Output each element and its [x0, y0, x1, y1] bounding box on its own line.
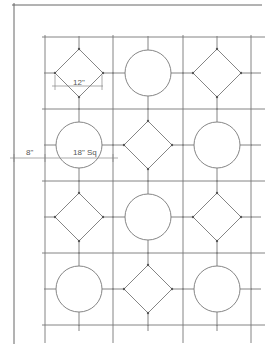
diamond-tile — [193, 49, 241, 97]
circle-dimension-label: 18" Sq — [73, 149, 97, 157]
tile-pattern-drawing — [0, 0, 278, 356]
circle-tile — [194, 122, 240, 168]
circle-tile — [56, 122, 102, 168]
diamond-tile — [124, 121, 172, 169]
border-offset-label: 8" — [26, 149, 33, 157]
circle-tile — [125, 194, 171, 240]
diamond-tile — [124, 265, 172, 313]
circle-tile — [56, 266, 102, 312]
circle-tile — [194, 266, 240, 312]
diamond-tile — [55, 49, 103, 97]
diamond-tile — [193, 193, 241, 241]
diamond-dimension-label: 12" — [73, 79, 85, 87]
circle-tile — [125, 50, 171, 96]
diamond-tile — [55, 193, 103, 241]
